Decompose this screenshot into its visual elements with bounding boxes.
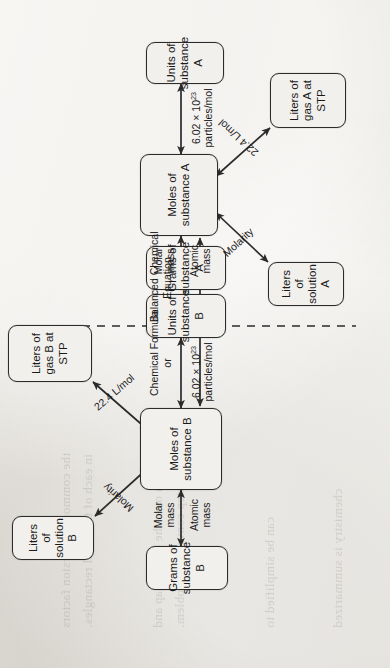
node-line: solution B: [53, 518, 79, 558]
label-line: or: [161, 330, 174, 396]
node-line: Liters of: [30, 332, 43, 374]
node-line: Units of: [165, 37, 178, 89]
node-liters-gas-b-stp[interactable]: Liters of gas B at STP: [8, 325, 92, 382]
label-line: Atomic: [188, 236, 200, 286]
node-line: gas B at: [43, 332, 56, 374]
label-line: 6.02 × 1023: [190, 80, 202, 156]
label-avogadro-b: 6.02 × 1023 particles/mol: [190, 334, 214, 410]
label-balanced-equation: Balanced Chemical Equation: [148, 234, 174, 322]
label-atomic-mass-a: Atomic mass: [188, 236, 212, 286]
label-line: mass: [200, 236, 212, 286]
node-liters-gas-a-stp[interactable]: Liters of gas A at STP: [270, 73, 346, 128]
node-liters-solution-b[interactable]: Liters of solution B: [12, 516, 94, 560]
label-line: mass: [200, 490, 212, 540]
node-line: STP: [315, 80, 328, 121]
node-line: Moles of: [166, 164, 179, 227]
label-line: Balanced Chemical: [148, 234, 161, 322]
label-line: Molar: [152, 490, 164, 540]
label-atomic-mass-b: Atomic mass: [188, 490, 212, 540]
label-line: particles/mol: [202, 334, 214, 410]
label-line: mass: [164, 490, 176, 540]
node-line: Liters of: [280, 264, 306, 304]
label-line: Chemical Formula: [148, 330, 161, 396]
node-line: substance A: [179, 164, 192, 227]
node-line: Liters of: [288, 80, 301, 121]
node-line: Grams of: [167, 542, 180, 594]
label-chemical-formula: Chemical Formula or: [148, 330, 174, 396]
node-moles-substance-a[interactable]: Moles of substance A: [140, 154, 218, 236]
label-line: Atomic: [188, 490, 200, 540]
node-units-substance-a[interactable]: Units of substance A: [146, 42, 224, 84]
node-line: substance B: [181, 417, 194, 480]
node-line: solution A: [306, 264, 332, 304]
node-grams-substance-b[interactable]: Grams of substance B: [146, 546, 228, 590]
node-moles-substance-b[interactable]: Moles of substance B: [140, 408, 222, 490]
label-molar-mass-b: Molar mass: [152, 490, 176, 540]
label-line: 6.02 × 1023: [190, 334, 202, 410]
node-line: Moles of: [168, 417, 181, 480]
node-line: substance B: [180, 542, 206, 594]
node-line: gas A at: [301, 80, 314, 121]
node-liters-solution-a[interactable]: Liters of solution A: [268, 262, 344, 306]
node-line: STP: [57, 332, 70, 374]
node-line: Liters of: [27, 518, 53, 558]
label-line: Equation: [161, 234, 174, 322]
mole-map-diagram: Grams of substance B Moles of substance …: [0, 0, 390, 668]
